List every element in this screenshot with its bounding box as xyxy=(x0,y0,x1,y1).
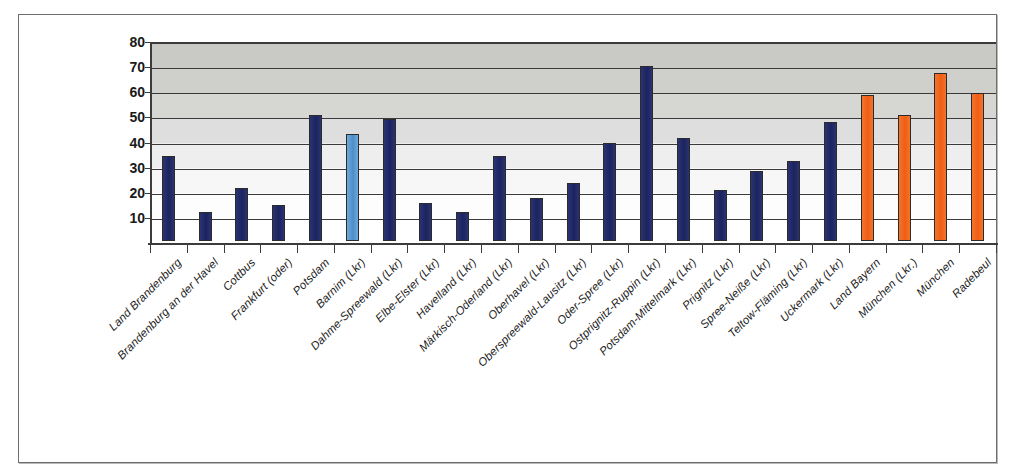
y-tick-label: 60 xyxy=(105,85,145,99)
chart-screenshot: 1020304050607080 Land BrandenburgBranden… xyxy=(0,0,1009,475)
bar xyxy=(272,205,285,241)
x-tick-mark xyxy=(518,245,519,253)
bar xyxy=(383,119,396,241)
x-axis-label: Elbe-Elster (Lkr) xyxy=(373,256,441,324)
x-tick-mark xyxy=(444,245,445,253)
x-axis-label: Uckermark (Lkr) xyxy=(778,256,846,324)
x-tick-mark xyxy=(775,245,776,253)
y-axis: 1020304050607080 xyxy=(97,15,145,265)
y-tick-label: 10 xyxy=(105,211,145,225)
x-tick-mark xyxy=(481,245,482,253)
bar xyxy=(419,203,432,241)
gridline-80 xyxy=(152,43,996,44)
y-tick-mark xyxy=(145,67,152,68)
bar xyxy=(199,212,212,241)
x-tick-mark xyxy=(665,245,666,253)
x-tick-mark xyxy=(150,245,151,253)
x-tick-mark xyxy=(591,245,592,253)
gridline-60 xyxy=(152,93,996,94)
bar xyxy=(640,66,653,241)
x-tick-mark xyxy=(849,245,850,253)
chart-frame: 1020304050607080 Land BrandenburgBranden… xyxy=(18,14,997,463)
x-tick-mark xyxy=(886,245,887,253)
x-tick-mark xyxy=(959,245,960,253)
bar xyxy=(530,198,543,241)
bar xyxy=(714,190,727,242)
x-axis-label: Spree-Neiße (Lkr) xyxy=(698,256,773,331)
x-tick-mark xyxy=(628,245,629,253)
bar xyxy=(567,183,580,241)
bar xyxy=(677,138,690,241)
bar xyxy=(934,73,947,241)
y-tick-mark xyxy=(145,117,152,118)
y-tick-mark xyxy=(145,218,152,219)
bar xyxy=(235,188,248,241)
bar xyxy=(787,161,800,241)
bar xyxy=(824,122,837,241)
bar xyxy=(493,156,506,241)
bar xyxy=(346,134,359,241)
x-tick-mark xyxy=(739,245,740,253)
y-tick-label: 70 xyxy=(105,60,145,74)
bar xyxy=(309,115,322,241)
x-tick-mark xyxy=(702,245,703,253)
x-tick-mark xyxy=(334,245,335,253)
bar xyxy=(603,143,616,241)
bar xyxy=(456,212,469,241)
x-tick-mark xyxy=(224,245,225,253)
x-tick-mark xyxy=(407,245,408,253)
x-axis-line xyxy=(148,243,998,245)
x-tick-mark xyxy=(297,245,298,253)
x-axis-label: Cottbus xyxy=(220,256,257,293)
bar xyxy=(861,95,874,241)
x-tick-mark xyxy=(996,245,997,253)
x-tick-mark xyxy=(371,245,372,253)
bar xyxy=(750,171,763,241)
x-tick-mark xyxy=(922,245,923,253)
x-axis-label: Oder-Spree (Lkr) xyxy=(554,256,625,327)
y-tick-label: 20 xyxy=(105,186,145,200)
bar xyxy=(971,93,984,241)
y-tick-mark xyxy=(145,143,152,144)
x-tick-mark xyxy=(555,245,556,253)
y-tick-label: 80 xyxy=(105,35,145,49)
y-tick-label: 30 xyxy=(105,161,145,175)
y-tick-mark xyxy=(145,168,152,169)
x-tick-mark xyxy=(187,245,188,253)
y-tick-label: 40 xyxy=(105,136,145,150)
x-axis-label: Radebeul xyxy=(949,256,993,300)
y-tick-mark xyxy=(145,193,152,194)
y-tick-mark xyxy=(145,92,152,93)
x-tick-mark xyxy=(260,245,261,253)
bar xyxy=(162,156,175,241)
gridline-70 xyxy=(152,68,996,69)
y-tick-mark xyxy=(145,42,152,43)
bar xyxy=(898,115,911,241)
x-tick-mark xyxy=(812,245,813,253)
y-tick-label: 50 xyxy=(105,110,145,124)
